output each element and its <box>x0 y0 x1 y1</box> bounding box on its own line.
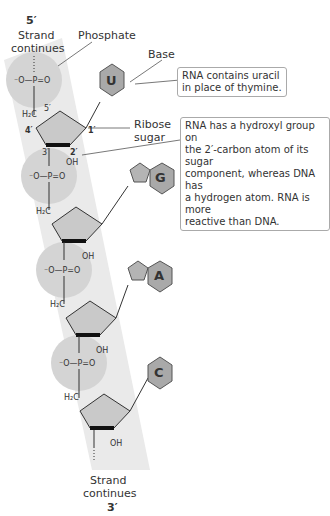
base-label: Base <box>148 48 175 61</box>
c1-label-1: 1′ <box>88 124 96 137</box>
h2c-1: H₂C <box>22 108 37 121</box>
phosphate-label: Phosphate <box>78 29 136 42</box>
oh-label-2: OH <box>82 250 94 263</box>
h2c-3: H₂C <box>50 298 65 311</box>
oh-label-3: OH <box>96 344 108 357</box>
phosphate-group-1: ⁻O—P=O <box>14 74 50 87</box>
phosphate-group-4: ⁻O—P=O <box>59 357 95 370</box>
three-prime-end-label: 3′ <box>107 501 118 514</box>
strand-continues-top-2: continues <box>11 42 65 55</box>
ribose-sugar-label-2: sugar <box>134 131 165 144</box>
c3-label-1: 3′ <box>42 146 49 159</box>
c5-label-1: 5′ <box>44 102 51 115</box>
strand-continues-bottom-1: Strand <box>90 474 127 487</box>
strand-continues-top-1: Strand <box>18 29 55 42</box>
base-letter-a: A <box>154 269 164 282</box>
oh-label-1: OH <box>66 156 78 169</box>
base-letter-g: G <box>155 171 166 184</box>
strand-continues-bottom-2: continues <box>83 487 137 500</box>
c4-label-1: 4′ <box>25 124 33 137</box>
uracil-callout: RNA contains uracil in place of thymine. <box>177 67 287 97</box>
hydroxyl-callout: RNA has a hydroxyl group on the 2′-carbo… <box>180 117 330 231</box>
ribose-sugar-label-1: Ribose <box>134 118 171 131</box>
base-letter-u: U <box>106 74 117 87</box>
oh-label-4: OH <box>110 437 122 450</box>
phosphate-group-3: ⁻O—P=O <box>44 264 80 277</box>
five-prime-end-label: 5′ <box>26 14 37 27</box>
base-guanine <box>130 163 174 194</box>
h2c-4: H₂C <box>64 391 79 404</box>
base-adenine <box>128 261 172 292</box>
phosphate-group-2: ⁻O—P=O <box>29 170 65 183</box>
h2c-2: H₂C <box>36 205 51 218</box>
base-letter-c: C <box>154 366 164 379</box>
